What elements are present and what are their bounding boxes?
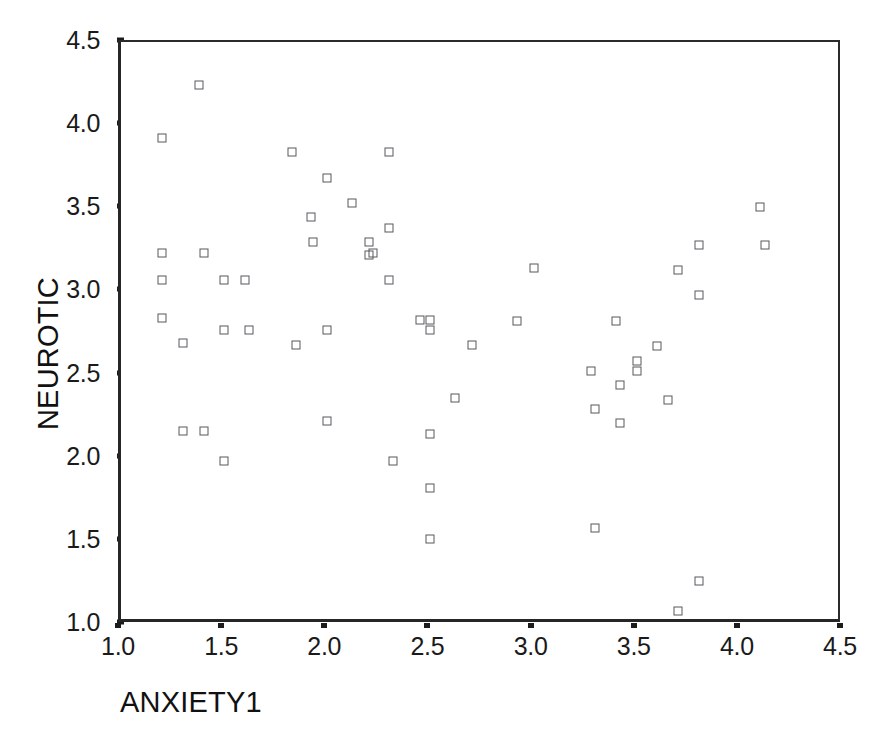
data-point xyxy=(368,249,377,258)
data-point xyxy=(632,357,641,366)
data-point xyxy=(426,315,435,324)
data-point xyxy=(244,325,253,334)
data-point xyxy=(632,367,641,376)
y-axis-tick-label: 1.0 xyxy=(38,608,100,637)
data-point xyxy=(467,340,476,349)
x-axis-tick xyxy=(631,623,637,628)
data-point xyxy=(158,314,167,323)
data-point xyxy=(389,457,398,466)
x-axis-tick-label: 4.0 xyxy=(720,632,754,661)
data-point xyxy=(426,325,435,334)
data-point xyxy=(663,395,672,404)
plot-area-frame xyxy=(118,40,840,622)
data-point xyxy=(694,240,703,249)
data-point xyxy=(323,174,332,183)
data-point xyxy=(616,380,625,389)
data-point xyxy=(292,340,301,349)
data-point xyxy=(220,325,229,334)
x-axis-tick-label: 4.5 xyxy=(823,632,857,661)
data-point xyxy=(385,275,394,284)
data-point xyxy=(591,523,600,532)
data-point xyxy=(220,457,229,466)
data-point xyxy=(426,430,435,439)
data-point xyxy=(348,199,357,208)
x-axis-tick-label: 2.5 xyxy=(410,632,444,661)
x-axis-tick-label: 1.0 xyxy=(101,632,135,661)
data-point xyxy=(308,237,317,246)
data-point xyxy=(673,606,682,615)
x-axis-tick xyxy=(115,623,121,628)
x-axis-title: ANXIETY1 xyxy=(120,686,262,719)
data-point xyxy=(288,147,297,156)
data-point xyxy=(199,427,208,436)
data-point xyxy=(158,134,167,143)
y-axis-tick-label: 1.5 xyxy=(38,524,100,553)
y-axis-tick-label: 4.0 xyxy=(38,109,100,138)
x-axis-tick xyxy=(734,623,740,628)
data-point xyxy=(451,393,460,402)
data-point xyxy=(178,338,187,347)
data-point xyxy=(426,535,435,544)
data-point xyxy=(195,81,204,90)
data-point xyxy=(385,224,394,233)
data-point xyxy=(323,417,332,426)
data-point xyxy=(364,237,373,246)
x-axis-tick-label: 3.5 xyxy=(617,632,651,661)
x-axis-tick-label: 1.5 xyxy=(204,632,238,661)
x-axis-tick xyxy=(837,623,843,628)
scatter-plot-figure: 1.01.52.02.53.03.54.04.5 1.01.52.02.53.0… xyxy=(0,0,880,741)
data-point xyxy=(694,290,703,299)
data-point xyxy=(240,275,249,284)
data-point xyxy=(323,325,332,334)
data-point xyxy=(513,317,522,326)
data-point xyxy=(587,367,596,376)
y-axis-title: NEUROTIC xyxy=(32,244,65,464)
data-point xyxy=(199,249,208,258)
data-point xyxy=(616,418,625,427)
data-point xyxy=(653,342,662,351)
data-point xyxy=(591,405,600,414)
x-axis-tick xyxy=(424,623,430,628)
x-axis-tick-label: 3.0 xyxy=(514,632,548,661)
data-point xyxy=(178,427,187,436)
data-point xyxy=(385,147,394,156)
data-point xyxy=(612,317,621,326)
data-point xyxy=(756,202,765,211)
data-point xyxy=(673,265,682,274)
x-axis-tick xyxy=(528,623,534,628)
x-axis-tick xyxy=(321,623,327,628)
y-axis-tick-label: 3.5 xyxy=(38,192,100,221)
data-point xyxy=(416,315,425,324)
x-axis-tick-label: 2.0 xyxy=(307,632,341,661)
y-axis-tick-label: 4.5 xyxy=(38,26,100,55)
data-point xyxy=(694,576,703,585)
data-point xyxy=(158,249,167,258)
data-point xyxy=(760,240,769,249)
data-point xyxy=(306,212,315,221)
data-point xyxy=(158,275,167,284)
data-point xyxy=(220,275,229,284)
data-point xyxy=(529,264,538,273)
x-axis-tick xyxy=(218,623,224,628)
data-point xyxy=(426,483,435,492)
